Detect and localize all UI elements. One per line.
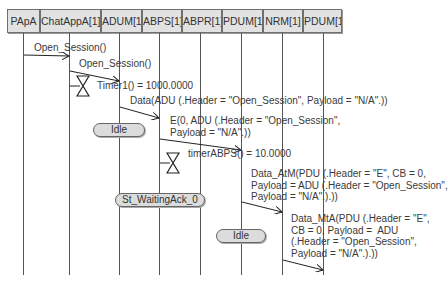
state-idle-adum[interactable]: Idle (93, 123, 145, 137)
timer-label: Timer1() = 1000.0000 (97, 80, 193, 92)
arrow-data-adu (120, 107, 159, 118)
hourglass-timer-icon (76, 75, 90, 97)
timer-label: timerABPS() = 10.0000 (188, 148, 291, 160)
hourglass-timer-icon (166, 152, 180, 174)
state-waiting-ack[interactable]: St_WaitingAck_0 (115, 193, 205, 207)
message-label: Data_AtM(PDU (.Header = "E", CB = 0, Pay… (251, 168, 448, 203)
message-label: E(0, ADU (.Header = "Open_Session", Payl… (170, 115, 340, 138)
arrow-data-atm (242, 202, 282, 212)
message-label: Open_Session() (34, 42, 106, 54)
arrow-open-session-1 (24, 55, 69, 56)
message-label: Data(ADU (.Header = "Open_Session", Payl… (130, 95, 388, 107)
state-idle-pdum[interactable]: Idle (216, 229, 266, 243)
arrow-data-mta (283, 260, 323, 270)
message-label: Data_MtA(PDU (.Header = "E", CB = 0, Pay… (291, 213, 430, 259)
message-label: Open_Session() (79, 58, 151, 70)
